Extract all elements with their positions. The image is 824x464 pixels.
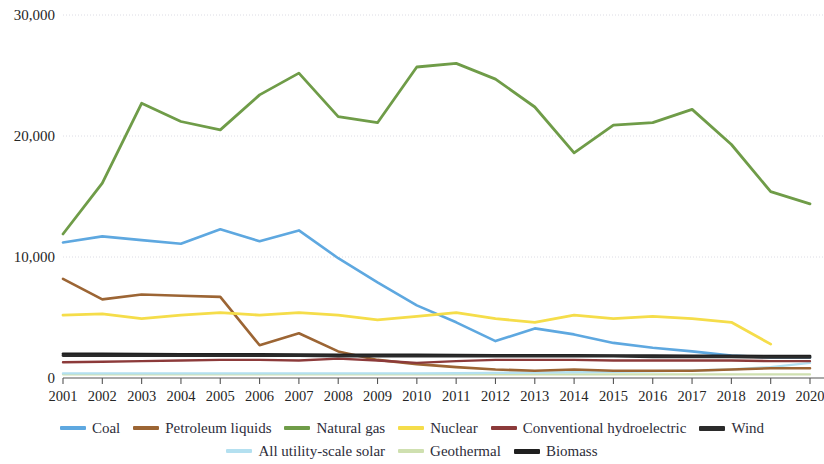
x-tick-label: 2006: [245, 388, 274, 404]
chart-legend-row-2: All utility-scale solarGeothermalBiomass: [0, 443, 824, 459]
x-axis: [63, 378, 824, 384]
x-tick-label: 2001: [49, 388, 78, 404]
legend-color-swatch: [699, 426, 725, 431]
x-tick-label: 2017: [678, 388, 707, 404]
x-tick-label: 2002: [88, 388, 117, 404]
x-tick-label: 2004: [166, 388, 196, 404]
legend-color-swatch: [284, 426, 310, 430]
chart-legend-row-1: CoalPetroleum liquidsNatural gasNuclearC…: [0, 420, 824, 436]
x-tick-label: 2015: [599, 388, 628, 404]
x-tick-label: 2016: [638, 388, 667, 404]
x-tick-label: 2010: [402, 388, 431, 404]
legend-color-swatch: [133, 426, 159, 430]
legend-item-coal[interactable]: Coal: [60, 420, 120, 436]
x-tick-label: 2003: [127, 388, 156, 404]
series-line: [63, 356, 810, 358]
y-tick-label: 20,000: [14, 128, 55, 144]
x-tick-label: 2011: [442, 388, 470, 404]
series-line: [63, 359, 810, 363]
legend-color-swatch: [491, 426, 517, 430]
x-tick-label: 2019: [756, 388, 785, 404]
x-axis-tick-labels: 2001200220032004200520062007200820092010…: [49, 388, 824, 404]
gridlines: [63, 15, 824, 257]
y-tick-label: 0: [48, 370, 56, 386]
legend-label: Petroleum liquids: [165, 420, 271, 436]
legend-color-swatch: [398, 449, 424, 453]
x-tick-label: 2005: [206, 388, 235, 404]
legend-label: Biomass: [546, 443, 598, 459]
series-line: [63, 229, 810, 357]
x-tick-label: 2020: [796, 388, 824, 404]
legend-label: Coal: [92, 420, 120, 436]
legend-item-biomass[interactable]: Biomass: [514, 443, 598, 459]
line-chart: 010,00020,00030,000 20012002200320042005…: [0, 0, 824, 464]
series-line: [63, 63, 810, 234]
legend-color-swatch: [226, 449, 252, 453]
legend-label: Wind: [731, 420, 764, 436]
legend-item-nuclear[interactable]: Nuclear: [398, 420, 477, 436]
legend-label: Conventional hydroelectric: [523, 420, 687, 436]
legend-label: Natural gas: [316, 420, 385, 436]
x-tick-label: 2012: [481, 388, 510, 404]
x-tick-label: 2013: [520, 388, 549, 404]
legend-item-petroleum-liquids[interactable]: Petroleum liquids: [133, 420, 271, 436]
x-tick-label: 2018: [717, 388, 746, 404]
legend-label: Geothermal: [430, 443, 501, 459]
y-tick-label: 30,000: [14, 7, 55, 23]
legend-item-all-utility-scale-solar[interactable]: All utility-scale solar: [226, 443, 385, 459]
chart-plot-area: 010,00020,00030,000 20012002200320042005…: [0, 0, 824, 464]
legend-item-wind[interactable]: Wind: [699, 420, 764, 436]
x-tick-label: 2014: [560, 388, 590, 404]
legend-item-geothermal[interactable]: Geothermal: [398, 443, 501, 459]
x-tick-label: 2008: [324, 388, 353, 404]
legend-color-swatch: [514, 449, 540, 454]
x-tick-label: 2009: [363, 388, 392, 404]
legend-label: All utility-scale solar: [258, 443, 385, 459]
legend-label: Nuclear: [430, 420, 477, 436]
legend-color-swatch: [398, 426, 424, 430]
data-series-lines: [63, 63, 810, 374]
series-line: [63, 313, 771, 344]
y-axis-tick-labels: 010,00020,00030,000: [14, 7, 55, 386]
legend-item-conventional-hydroelectric[interactable]: Conventional hydroelectric: [491, 420, 687, 436]
y-tick-label: 10,000: [14, 249, 55, 265]
legend-color-swatch: [60, 426, 86, 430]
x-tick-label: 2007: [284, 388, 313, 404]
legend-item-natural-gas[interactable]: Natural gas: [284, 420, 385, 436]
